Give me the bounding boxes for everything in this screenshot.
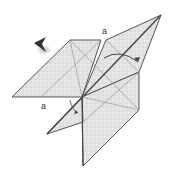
label-a-top: a <box>102 26 107 36</box>
label-a-bottom: a <box>41 101 46 111</box>
origami-diagram <box>0 0 169 176</box>
